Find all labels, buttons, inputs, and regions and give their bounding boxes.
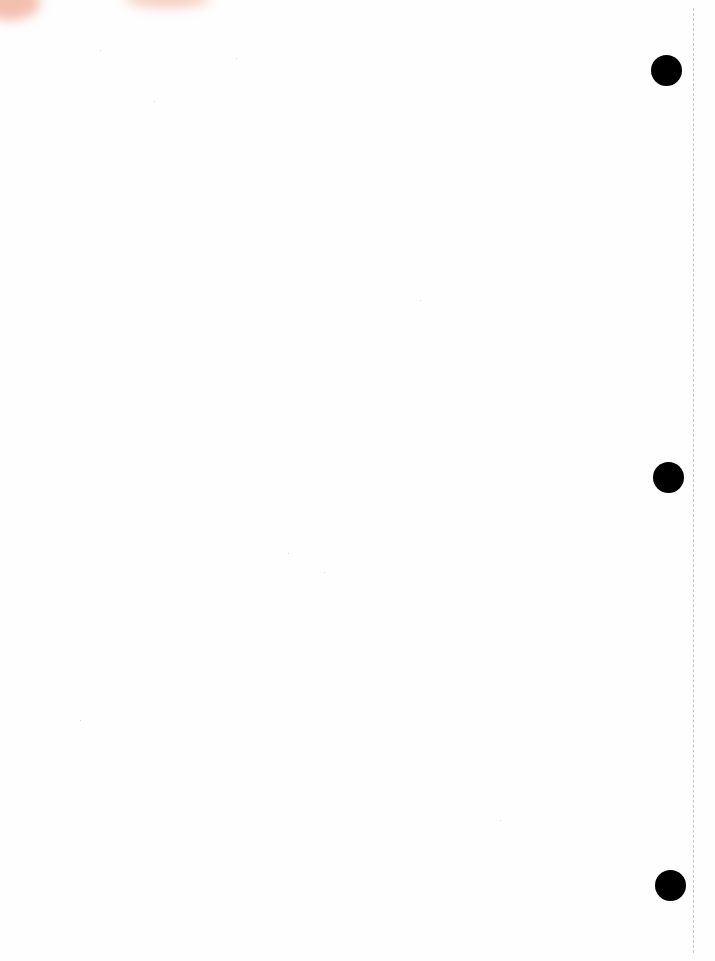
punch-hole-middle — [653, 462, 684, 493]
blank-page — [0, 0, 715, 961]
paper-speck — [80, 720, 81, 721]
paper-speck — [236, 58, 237, 59]
paper-speck — [100, 50, 101, 51]
perforation-line — [693, 8, 694, 953]
paper-speck — [154, 101, 155, 102]
stain-mark — [0, 0, 40, 20]
punch-hole-top — [651, 55, 682, 86]
paper-speck — [420, 300, 421, 301]
paper-speck — [500, 820, 501, 821]
paper-speck — [324, 572, 325, 573]
stain-mark — [125, 0, 210, 8]
punch-hole-bottom — [655, 870, 686, 901]
paper-speck — [288, 553, 289, 554]
